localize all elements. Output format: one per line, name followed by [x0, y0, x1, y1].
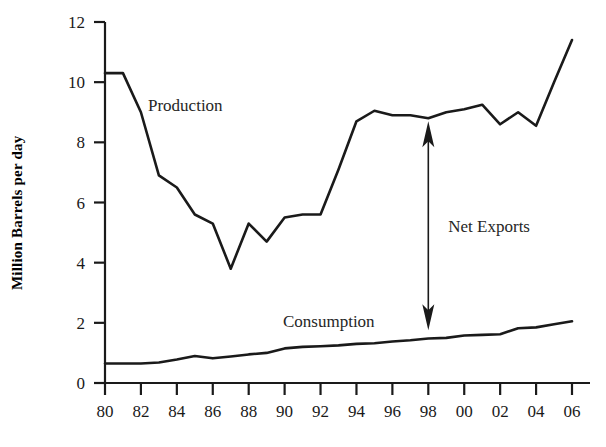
series-label-consumption: Consumption	[283, 312, 375, 331]
series-label-production: Production	[148, 96, 223, 115]
y-tick-label: 8	[77, 133, 86, 152]
x-tick-label: 88	[240, 402, 257, 421]
x-axis-ticks: 8082848688909294969800020406	[97, 383, 581, 421]
x-tick-label: 84	[168, 402, 186, 421]
x-tick-label: 98	[420, 402, 437, 421]
y-axis-ticks: 024681012	[68, 13, 105, 393]
oil-production-consumption-chart: Million Barrels per day 024681012 808284…	[0, 0, 606, 447]
x-tick-label: 96	[384, 402, 401, 421]
y-tick-label: 12	[68, 13, 85, 32]
x-tick-label: 06	[564, 402, 581, 421]
y-tick-label: 4	[77, 254, 86, 273]
y-tick-label: 10	[68, 73, 85, 92]
chart-canvas: Million Barrels per day 024681012 808284…	[0, 0, 606, 447]
x-tick-label: 86	[204, 402, 221, 421]
x-tick-label: 94	[348, 402, 366, 421]
x-tick-label: 04	[528, 402, 546, 421]
x-tick-label: 82	[132, 402, 149, 421]
y-axis-title: Million Barrels per day	[9, 135, 25, 290]
net-exports-annotation: Net Exports	[422, 121, 530, 330]
x-tick-label: 80	[97, 402, 114, 421]
x-tick-label: 00	[456, 402, 473, 421]
y-tick-label: 2	[77, 314, 86, 333]
y-tick-label: 6	[77, 194, 86, 213]
x-tick-label: 02	[492, 402, 509, 421]
y-tick-label: 0	[77, 374, 86, 393]
x-tick-label: 92	[312, 402, 329, 421]
net-exports-label: Net Exports	[448, 217, 530, 236]
x-tick-label: 90	[276, 402, 293, 421]
